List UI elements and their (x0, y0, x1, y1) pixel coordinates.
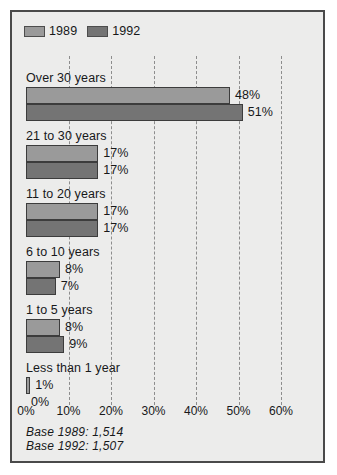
x-tick-label: 20% (99, 405, 123, 417)
bar-value-label: 17% (103, 146, 128, 161)
x-tick-label: 10% (56, 405, 80, 417)
chart-figure: 1989 1992 Over 30 years48%51%21 to 30 ye… (10, 10, 325, 463)
bar-value-label: 17% (103, 163, 128, 178)
legend-swatch-1992 (87, 26, 108, 37)
group-label: Over 30 years (26, 72, 106, 85)
bar-1989 (26, 261, 60, 278)
bar-value-label: 8% (65, 262, 83, 277)
footnote-line-base-1992: Base 1992: 1,507 (26, 439, 306, 453)
bar-1989 (26, 319, 60, 336)
group-label: 11 to 20 years (26, 188, 106, 201)
bar-groups: Over 30 years48%51%21 to 30 years17%17%1… (12, 50, 323, 405)
bar-value-label: 48% (235, 88, 260, 103)
footnote: Base 1989: 1,514 Base 1992: 1,507 (26, 425, 306, 453)
bar-value-label: 1% (35, 378, 53, 393)
bar-value-label: 17% (103, 204, 128, 219)
bar-1992 (26, 336, 64, 353)
bar-1992 (26, 104, 243, 121)
bar-1992 (26, 162, 98, 179)
bar-value-label: 7% (61, 279, 79, 294)
legend-swatch-1989 (24, 26, 45, 37)
legend-item-1989: 1989 (24, 25, 77, 38)
legend-label-1992: 1992 (112, 25, 140, 38)
bar-1989 (26, 145, 98, 162)
plot-area: Over 30 years48%51%21 to 30 years17%17%1… (12, 50, 323, 405)
x-tick-label: 0% (17, 405, 34, 417)
bar-1992 (26, 220, 98, 237)
bar-value-label: 9% (69, 337, 87, 352)
x-tick-label: 30% (141, 405, 165, 417)
legend-label-1989: 1989 (49, 25, 77, 38)
bar-value-label: 51% (248, 105, 273, 120)
chart-legend: 1989 1992 (24, 22, 140, 40)
x-tick-label: 40% (184, 405, 208, 417)
footnote-line-base-1989: Base 1989: 1,514 (26, 425, 306, 439)
bar-1989 (26, 203, 98, 220)
x-axis: 0%10%20%30%40%50%60% (12, 405, 323, 423)
group-label: 1 to 5 years (26, 304, 93, 317)
x-tick-label: 60% (269, 405, 293, 417)
bar-value-label: 17% (103, 221, 128, 236)
bar-1992 (26, 278, 56, 295)
legend-item-1992: 1992 (87, 25, 140, 38)
group-label: 6 to 10 years (26, 246, 100, 259)
group-label: 21 to 30 years (26, 130, 107, 143)
group-label: Less than 1 year (26, 362, 120, 375)
bar-value-label: 8% (65, 320, 83, 335)
x-tick-label: 50% (226, 405, 250, 417)
bar-1989 (26, 87, 230, 104)
bar-1989 (26, 377, 30, 394)
